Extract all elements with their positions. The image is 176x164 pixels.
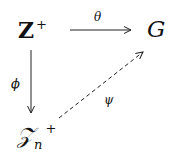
z-base: Z [18, 17, 34, 43]
commutative-diagram: Z+ G 𝒵n+ θ ϕ ψ [0, 0, 176, 164]
zn-sub: n [34, 137, 42, 152]
arrow-psi [59, 52, 143, 118]
zn-sup: + [45, 121, 56, 136]
node-g: G [147, 18, 165, 41]
node-zn-plus: 𝒵n+ [17, 122, 56, 151]
label-psi: ψ [104, 94, 113, 106]
z-sup: + [36, 17, 47, 32]
zn-base: 𝒵 [17, 123, 34, 148]
label-phi: ϕ [11, 77, 20, 90]
node-z-plus: Z+ [18, 18, 47, 41]
label-theta: θ [94, 11, 101, 23]
